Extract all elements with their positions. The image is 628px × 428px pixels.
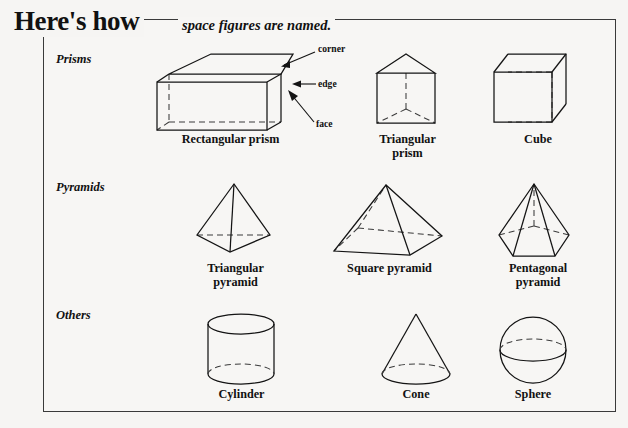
caption-cylinder: Cylinder bbox=[194, 388, 289, 402]
caption-square-pyramid: Square pyramid bbox=[322, 262, 457, 276]
cylinder-figure bbox=[202, 312, 280, 390]
triangular-pyramid-figure bbox=[192, 183, 278, 261]
row-label-others: Others bbox=[56, 308, 91, 323]
triangular-prism-figure bbox=[372, 53, 444, 131]
caption-pentagonal-pyramid: Pentagonal pyramid bbox=[483, 262, 593, 289]
row-label-prisms: Prisms bbox=[56, 52, 91, 67]
row-label-pyramids: Pyramids bbox=[56, 180, 105, 195]
page-subtitle: space figures are named. bbox=[178, 17, 335, 34]
pentagonal-pyramid-figure bbox=[495, 182, 575, 264]
annotation-edge: edge bbox=[318, 78, 337, 89]
cone-figure bbox=[375, 312, 457, 390]
page-canvas: Here's how space figures are named. Pris… bbox=[0, 0, 628, 428]
caption-triangular-prism: Triangular prism bbox=[355, 133, 460, 160]
caption-sphere: Sphere bbox=[492, 388, 574, 402]
caption-triangular-pyramid: Triangular pyramid bbox=[178, 262, 293, 289]
caption-cube: Cube bbox=[498, 133, 578, 147]
annotation-face: face bbox=[316, 118, 333, 129]
page-title: Here's how bbox=[14, 6, 144, 37]
cube-figure bbox=[490, 50, 580, 132]
caption-rectangular-prism: Rectangular prism bbox=[143, 133, 318, 147]
square-pyramid-figure bbox=[330, 183, 446, 263]
sphere-figure bbox=[492, 312, 574, 390]
caption-cone: Cone bbox=[377, 388, 455, 402]
annotation-corner: corner bbox=[318, 43, 345, 54]
